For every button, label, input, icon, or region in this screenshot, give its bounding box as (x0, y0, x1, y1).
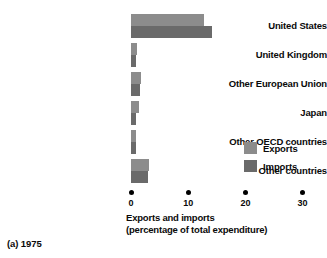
bar-exports-other-oecd-countries (131, 130, 136, 142)
x-tick-label-20: 20 (233, 198, 257, 208)
x-tick-dot-20 (243, 190, 248, 195)
x-axis-title-line-1: Exports and imports (126, 212, 267, 224)
x-axis-title: Exports and imports (percentage of total… (126, 212, 267, 235)
category-label-united-kingdom: United Kingdom (203, 50, 327, 60)
legend-label-exports: Exports (263, 143, 298, 154)
chart-figure: United States United Kingdom Other Europ… (0, 0, 327, 258)
legend: Exports Imports (244, 139, 298, 175)
bar-exports-japan (131, 101, 139, 113)
x-tick-label-0: 0 (119, 198, 143, 208)
figure-caption: (a) 1975 (7, 238, 42, 249)
legend-item-imports: Imports (244, 157, 298, 175)
bar-exports-united-states (131, 14, 204, 26)
bar-exports-other-european-union (131, 72, 141, 84)
x-tick-dot-30 (300, 190, 305, 195)
category-label-other-european-union: Other European Union (203, 79, 327, 89)
legend-label-imports: Imports (263, 161, 297, 172)
bar-imports-united-kingdom (131, 55, 136, 67)
bar-imports-japan (131, 113, 136, 125)
bar-exports-other-countries (131, 159, 149, 171)
x-axis-title-line-2: (percentage of total expenditure) (126, 224, 267, 236)
x-tick-dot-0 (129, 190, 134, 195)
bar-imports-other-european-union (131, 84, 140, 96)
legend-swatch-exports-icon (244, 142, 257, 154)
bar-imports-united-states (131, 26, 212, 38)
x-tick-dot-10 (186, 190, 191, 195)
legend-item-exports: Exports (244, 139, 298, 157)
category-label-japan: Japan (203, 108, 327, 118)
bar-imports-other-countries (131, 171, 148, 183)
x-tick-label-30: 30 (291, 198, 315, 208)
bar-exports-united-kingdom (131, 43, 137, 55)
x-tick-label-10: 10 (176, 198, 200, 208)
category-label-united-states: United States (203, 21, 327, 31)
legend-swatch-imports-icon (244, 160, 257, 172)
bar-imports-other-oecd-countries (131, 142, 136, 154)
